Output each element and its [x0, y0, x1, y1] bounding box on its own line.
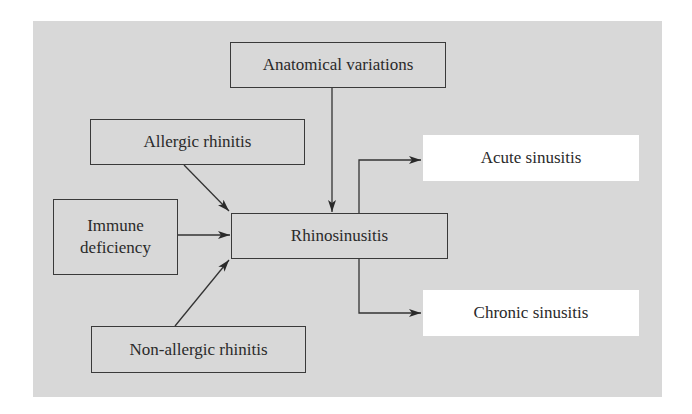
node-chronic-sinusitis: Chronic sinusitis — [423, 290, 639, 336]
node-non-allergic-rhinitis: Non-allergic rhinitis — [91, 326, 306, 373]
node-acute-sinusitis: Acute sinusitis — [423, 135, 639, 181]
node-label-line2: deficiency — [80, 237, 151, 259]
node-allergic-rhinitis: Allergic rhinitis — [90, 119, 305, 165]
node-label: Acute sinusitis — [481, 147, 582, 169]
node-label: Allergic rhinitis — [144, 131, 252, 153]
node-label: Non-allergic rhinitis — [129, 339, 267, 361]
node-label-line1: Immune — [87, 215, 144, 237]
node-immune-deficiency: Immune deficiency — [53, 199, 178, 275]
node-anatomical-variations: Anatomical variations — [230, 42, 446, 88]
node-rhinosinusitis: Rhinosinusitis — [231, 213, 448, 259]
node-label: Anatomical variations — [263, 54, 414, 76]
node-label: Rhinosinusitis — [291, 225, 388, 247]
node-label: Chronic sinusitis — [474, 302, 589, 324]
